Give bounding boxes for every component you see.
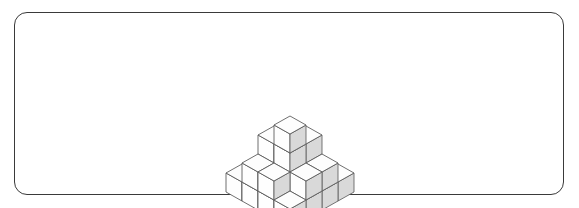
cube-face-left	[274, 200, 290, 208]
rounded-rectangle-border	[14, 12, 564, 195]
illustration-canvas	[0, 0, 579, 208]
cube-face-right	[290, 200, 306, 208]
